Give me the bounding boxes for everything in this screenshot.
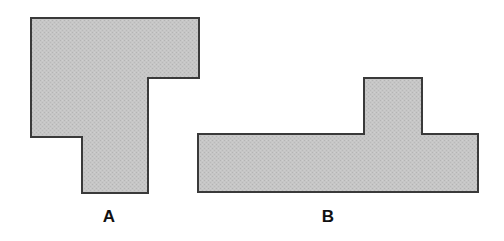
shape-a-label: A	[89, 208, 129, 225]
figure-canvas	[0, 0, 504, 241]
shape-b-label: B	[308, 208, 348, 225]
shapes-figure	[0, 0, 504, 241]
